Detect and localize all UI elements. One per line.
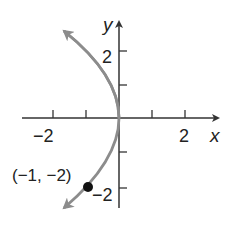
parabola-graph: (−1, −2) y x −2 2 2 −2 — [0, 0, 238, 228]
y-tick-label-2: 2 — [102, 47, 112, 67]
parabola-curve-upper-arrow — [64, 31, 119, 118]
x-axis-label: x — [209, 125, 221, 146]
x-tick-label-2: 2 — [179, 126, 189, 146]
y-axis-label: y — [101, 14, 114, 35]
y-tick-label-neg2: −2 — [92, 185, 113, 205]
point-label: (−1, −2) — [12, 166, 72, 185]
x-tick-label-neg2: −2 — [33, 126, 54, 146]
